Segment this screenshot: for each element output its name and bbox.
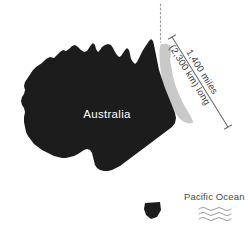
australia-map-figure: Australia 1,400 miles (2,300 km) long Pa… [0,0,248,229]
country-label: Australia [83,108,131,120]
ocean-label: Pacific Ocean [184,191,245,202]
